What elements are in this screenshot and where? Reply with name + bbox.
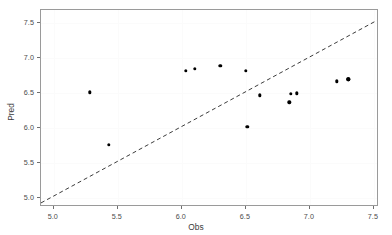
x-tick-label: 6.5 [240, 212, 250, 221]
x-tick-label: 5.5 [112, 212, 122, 221]
y-tick-mark [37, 22, 40, 23]
y-tick-label: 5.5 [0, 157, 34, 166]
y-tick-mark [37, 57, 40, 58]
scatter-plot-figure: 5.05.56.06.57.07.5 5.05.56.06.57.07.5 Pr… [0, 0, 392, 235]
x-tick-mark [181, 206, 182, 209]
x-tick-mark [373, 206, 374, 209]
y-tick-mark [37, 127, 40, 128]
y-tick-label: 5.0 [0, 192, 34, 201]
x-tick-mark [309, 206, 310, 209]
x-tick-label: 6.0 [176, 212, 186, 221]
y-tick-mark [37, 162, 40, 163]
x-tick-label: 7.5 [368, 212, 378, 221]
x-tick-label: 7.0 [304, 212, 314, 221]
x-tick-label: 5.0 [48, 212, 58, 221]
plot-panel [40, 9, 378, 206]
x-axis-title: Obs [0, 222, 392, 232]
y-tick-mark [37, 197, 40, 198]
identity-reference-line [41, 10, 377, 205]
y-tick-label: 7.5 [0, 18, 34, 27]
y-axis-title: Pred [6, 92, 16, 132]
y-tick-label: 7.0 [0, 53, 34, 62]
x-tick-mark [53, 206, 54, 209]
y-tick-mark [37, 92, 40, 93]
x-tick-mark [117, 206, 118, 209]
x-tick-mark [245, 206, 246, 209]
